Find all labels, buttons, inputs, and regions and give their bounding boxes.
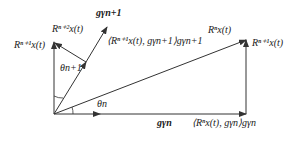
label-projection-n1: ⟨Rⁿ⁺¹x(t), gγn+1⟩gγn+1: [107, 36, 203, 46]
label-residual-n: Rⁿx(t): [208, 25, 231, 35]
label-residual-n1-right: Rⁿ⁺¹x(t): [252, 38, 283, 48]
label-residual-n2: Rⁿ⁺²x(t): [52, 24, 83, 34]
label-residual-n1-left: Rⁿ⁺¹x(t): [14, 40, 45, 50]
label-theta-n: θn: [97, 99, 107, 109]
label-atom-g-n: gγn: [157, 118, 172, 128]
label-atom-g-n1: gγn+1: [96, 8, 121, 18]
diagram-canvas: Rⁿ⁺¹x(t) Rⁿ⁺²x(t) gγn+1 ⟨Rⁿ⁺¹x(t), gγn+1…: [0, 0, 298, 148]
label-theta-n1: θn+1: [60, 63, 82, 73]
label-projection-n: ⟨Rⁿx(t), gγn⟩gγn: [192, 118, 256, 128]
